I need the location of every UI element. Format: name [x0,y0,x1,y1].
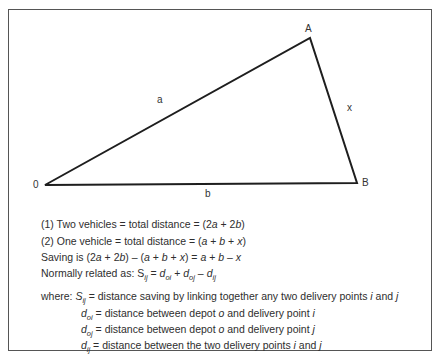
definition-d-oi: doi = distance between depot o and deliv… [81,307,315,319]
vertex-label-b: B [362,178,369,188]
definition-saving: where: Sij = distance saving by linking … [41,290,398,302]
equation-two-vehicles: (1) Two vehicles = total distance = (2a … [41,218,245,230]
vertex-label-a: A [305,24,312,34]
definition-d-oj: doj = distance between depot o and deliv… [81,323,315,335]
definition-d-ij: dij = distance between the two delivery … [81,339,322,351]
equation-one-vehicle: (2) One vehicle = total distance = (a + … [41,235,246,247]
edge-label-a: a [157,95,163,105]
triangle-route [45,38,357,185]
equation-saving: Saving is (2a + 2b) – (a + b + x) = a + … [41,251,241,263]
vertex-label-depot: 0 [33,180,39,190]
equation-normal-relation: Normally related as: Sij = doi + doj – d… [41,267,216,279]
edge-label-x: x [347,103,352,113]
edge-label-b: b [205,189,211,199]
